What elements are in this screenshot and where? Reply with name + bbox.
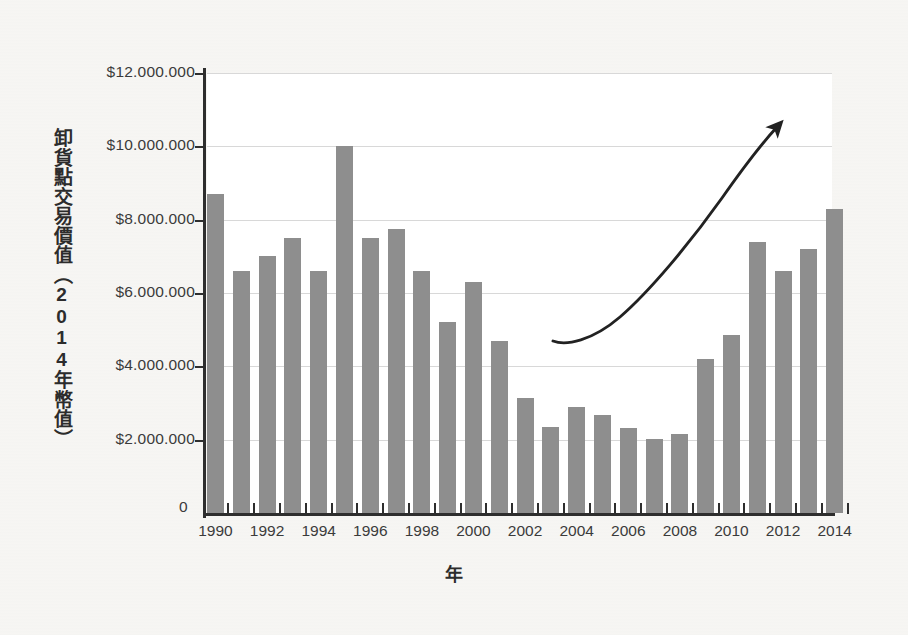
bar [336, 146, 353, 513]
chart-figure: 卸貨點交易價值（2014年幣值） $12.000.000$10.000.000$… [0, 0, 908, 635]
y-axis-tick-label: $8.000.000 [115, 210, 195, 228]
x-axis-tick [666, 503, 668, 514]
bar [646, 439, 663, 513]
y-axis-tick [195, 220, 206, 222]
y-axis-title: 卸貨點交易價值（2014年幣值） [38, 128, 72, 448]
plot-area [207, 73, 832, 513]
bar-series [207, 73, 832, 513]
x-axis-tick [821, 503, 823, 514]
y-axis-tick [195, 293, 206, 295]
x-axis-tick [511, 503, 513, 514]
bar [800, 249, 817, 513]
bar [826, 209, 843, 513]
bar [517, 398, 534, 514]
x-axis-tick [331, 503, 333, 514]
x-axis-tick [279, 503, 281, 514]
x-axis-title: 年 [0, 560, 908, 586]
x-axis-tick-label: 2014 [805, 522, 865, 540]
x-axis-line [203, 513, 835, 516]
bar [594, 415, 611, 513]
bar [671, 434, 688, 513]
bar [362, 238, 379, 513]
bar [749, 242, 766, 513]
bar [568, 407, 585, 513]
bar [259, 256, 276, 513]
x-axis-tick [227, 503, 229, 514]
bar [439, 322, 456, 513]
x-axis-tick [589, 503, 591, 514]
x-axis-tick [640, 503, 642, 514]
y-axis-tick-label: $10.000.000 [107, 136, 195, 154]
bar [491, 341, 508, 513]
x-axis-tick [305, 503, 307, 514]
bar [413, 271, 430, 513]
bar [620, 428, 637, 513]
x-axis-tick [692, 503, 694, 514]
bar [542, 427, 559, 513]
x-axis-tick [356, 503, 358, 514]
bar [723, 335, 740, 513]
x-axis-tick [718, 503, 720, 514]
x-axis-tick [382, 503, 384, 514]
bar [310, 271, 327, 513]
x-axis-tick [563, 503, 565, 514]
x-axis-tick [743, 503, 745, 514]
bar [388, 229, 405, 513]
x-axis-tick [769, 503, 771, 514]
y-axis-zero-label: 0 [179, 498, 188, 516]
y-axis-tick [195, 146, 206, 148]
bar [207, 194, 224, 513]
y-axis-tick-label: $12.000.000 [107, 63, 195, 81]
x-axis-tick [408, 503, 410, 514]
y-axis-tick [195, 440, 206, 442]
x-axis-tick [460, 503, 462, 514]
bar [233, 271, 250, 513]
bar [465, 282, 482, 513]
x-axis-tick [795, 503, 797, 514]
y-axis-tick-label: $2.000.000 [115, 430, 195, 448]
x-axis-tick [253, 503, 255, 514]
bar [284, 238, 301, 513]
bar [775, 271, 792, 513]
x-axis-tick [485, 503, 487, 514]
y-axis-tick-label: $4.000.000 [115, 356, 195, 374]
bar [697, 359, 714, 513]
x-axis-tick [614, 503, 616, 514]
y-axis-tick-label: $6.000.000 [115, 283, 195, 301]
x-axis-tick [434, 503, 436, 514]
x-axis-tick [537, 503, 539, 514]
y-axis-tick [195, 366, 206, 368]
x-axis-tick [847, 503, 849, 514]
y-axis-tick [195, 73, 206, 75]
